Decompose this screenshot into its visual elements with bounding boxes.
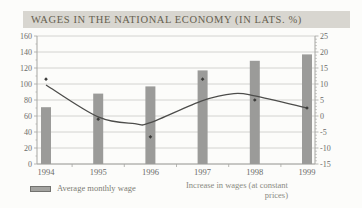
trend-line (46, 85, 307, 125)
legend-bar-label: Average monthly wage (57, 183, 136, 193)
left-axis-tick-label: 160 (20, 32, 32, 41)
year-label: 1999 (299, 167, 316, 177)
left-axis-tick-label: 20 (24, 144, 32, 153)
right-axis-tick-label: 15 (320, 64, 328, 73)
right-axis-tick-label: -10 (320, 144, 331, 153)
year-label: 1994 (38, 167, 56, 177)
left-axis-tick-label: 100 (20, 80, 32, 89)
left-axis-tick-label: 140 (20, 48, 32, 57)
legend-line-label-line1: Increase in wages (at constant (186, 180, 288, 190)
bar-1994 (41, 107, 51, 164)
legend-bar-swatch-icon (30, 186, 51, 192)
year-label: 1995 (90, 167, 107, 177)
legend-line-label: Increase in wages (at constant prices) (168, 181, 288, 200)
right-axis-tick-label: -5 (320, 128, 327, 137)
data-marker-1994 (44, 77, 48, 81)
left-axis-tick-label: 80 (24, 96, 32, 105)
bar-1998 (250, 61, 260, 164)
right-axis-tick-label: 25 (320, 32, 328, 41)
year-label: 1997 (194, 167, 211, 177)
bar-1995 (93, 94, 103, 164)
bar-1997 (198, 70, 208, 164)
year-label: 1996 (142, 167, 159, 177)
year-label: 1998 (246, 167, 263, 177)
left-axis-tick-label: 120 (20, 64, 32, 73)
wages-chart-plot: 1601401201008060402002520151050-5-10-151… (0, 0, 362, 208)
right-axis-tick-label: -15 (320, 160, 331, 169)
bar-1996 (145, 86, 155, 164)
left-axis-tick-label: 0 (28, 160, 32, 169)
right-axis-tick-label: 5 (320, 96, 324, 105)
left-axis-tick-label: 40 (24, 128, 32, 137)
right-axis-tick-label: 0 (320, 112, 324, 121)
left-axis-tick-label: 60 (24, 112, 32, 121)
right-axis-tick-label: 10 (320, 80, 328, 89)
right-axis-tick-label: 20 (320, 48, 328, 57)
legend-line-label-line2: prices) (265, 190, 288, 200)
